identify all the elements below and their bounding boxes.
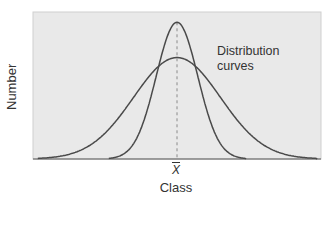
x-axis-label: Class: [156, 180, 196, 195]
curves-annotation: Distribution curves: [217, 44, 280, 74]
y-axis-label: Number: [4, 76, 18, 110]
x-tick-mean: X: [166, 163, 186, 177]
mean-symbol: X: [172, 163, 180, 177]
annotation-line-2: curves: [217, 59, 280, 74]
annotation-line-1: Distribution: [217, 44, 280, 59]
